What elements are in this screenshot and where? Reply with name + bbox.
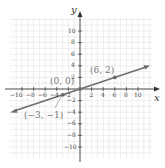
x-axis-label: x [154, 93, 160, 103]
y-tick-label: −6 [67, 120, 76, 126]
y-tick-label: 6 [71, 51, 75, 57]
x-tick-label: −8 [26, 92, 35, 98]
y-tick-label: −8 [67, 132, 76, 138]
coordinate-plane [0, 0, 165, 168]
y-axis-arrow-icon [78, 11, 83, 17]
x-tick-label: 10 [134, 92, 142, 98]
y-tick-label: −2 [67, 97, 76, 103]
line-arrow-right-icon [144, 65, 151, 69]
x-tick-label: 6 [113, 92, 117, 98]
x-tick-label: 8 [124, 92, 128, 98]
x-tick-label: 4 [101, 92, 105, 98]
x-axis-arrow-icon [154, 87, 160, 92]
y-tick-label: 8 [71, 39, 75, 45]
axes [5, 11, 160, 162]
x-tick-label: −10 [10, 92, 23, 98]
y-tick-label: 10 [68, 28, 76, 34]
point-origin [78, 87, 82, 91]
point-label-neg3-neg1: (−3, −1) [24, 111, 63, 120]
x-tick-label: −6 [38, 92, 47, 98]
x-tick-label: 2 [90, 92, 94, 98]
x-tick-label: −4 [50, 92, 59, 98]
y-axis-label: y [71, 5, 77, 15]
y-tick-label: −10 [64, 144, 77, 150]
y-tick-label: 4 [71, 62, 75, 68]
line-arrow-left-icon [10, 108, 18, 112]
point-label-origin: (0, 0) [50, 77, 74, 86]
point-6-2 [113, 76, 117, 80]
y-tick-label: −4 [67, 109, 76, 115]
point-label-6-2: (6, 2) [90, 66, 114, 75]
